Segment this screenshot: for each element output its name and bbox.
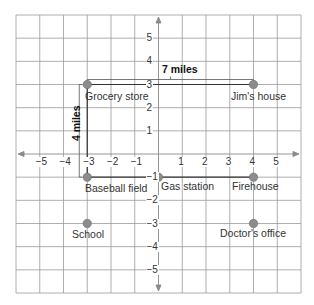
distance-label-horizontal: 7 miles [162, 64, 198, 75]
label-school: School [72, 229, 104, 240]
x-tick-label: 5 [272, 157, 280, 167]
y-tick-label: 1 [146, 126, 154, 136]
y-tick-label: 4 [146, 56, 154, 66]
label-grocery-store: Grocery store [85, 91, 149, 102]
label-firehouse: Firehouse [232, 181, 279, 192]
label-doctors-office: Doctor's office [220, 228, 286, 239]
label-gas-station: Gas station [161, 181, 214, 192]
location-point [249, 80, 257, 88]
x-tick-label: −2 [106, 157, 119, 167]
x-tick-label: −5 [35, 157, 48, 167]
arrow-down-icon [156, 285, 161, 291]
arrow-left-icon [18, 152, 24, 157]
grid [0, 0, 314, 305]
label-jims-house: Jim's house [231, 91, 286, 102]
label-baseball-field: Baseball field [85, 183, 147, 194]
location-point [83, 219, 91, 227]
x-tick-label: −3 [82, 157, 95, 167]
x-tick-label: 3 [225, 157, 233, 167]
x-tick-label: 2 [201, 157, 209, 167]
x-tick-label: −4 [59, 157, 72, 167]
location-point [83, 80, 91, 88]
y-tick-label: 5 [146, 33, 154, 43]
distance-label-vertical: 4 miles [71, 103, 82, 143]
y-tick-label: −4 [146, 242, 159, 252]
coordinate-map: −5−4−3−2−112345 54321−1−2−3−4−5 Grocery … [0, 0, 314, 305]
x-tick-label: 1 [177, 157, 185, 167]
y-tick-label: 3 [146, 80, 154, 90]
x-tick-label: 4 [249, 157, 257, 167]
y-tick-label: 2 [146, 103, 154, 113]
arrow-right-icon [293, 152, 299, 157]
y-tick-label: −1 [146, 172, 159, 182]
location-point [83, 173, 91, 181]
y-tick-label: −2 [146, 195, 159, 205]
arrow-up-icon [156, 17, 161, 23]
y-tick-label: −5 [146, 265, 159, 275]
bracket-horizontal [87, 80, 253, 83]
y-tick-label: −3 [146, 219, 159, 229]
x-tick-label: −1 [130, 157, 143, 167]
